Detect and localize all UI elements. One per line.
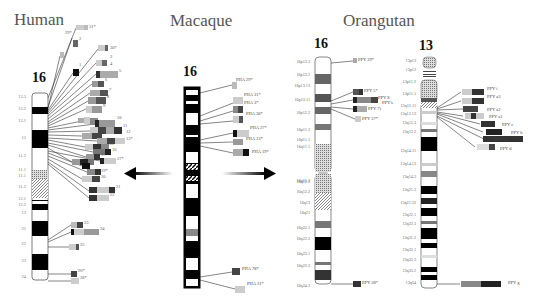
svg-text:13q32.1: 13q32.1 bbox=[402, 247, 416, 252]
svg-text:16q23.1: 16q23.1 bbox=[296, 251, 310, 256]
svg-text:21: 21 bbox=[22, 226, 27, 231]
svg-text:16q22.1: 16q22.1 bbox=[296, 225, 310, 230]
svg-text:11.2: 11.2 bbox=[18, 184, 26, 189]
svg-text:31*: 31* bbox=[89, 24, 97, 29]
svg-text:10: 10 bbox=[117, 115, 122, 120]
svg-text:PPY e: PPY e bbox=[495, 137, 506, 142]
svg-text:16q12.2: 16q12.2 bbox=[296, 189, 310, 194]
svg-text:PPY 7): PPY 7) bbox=[368, 106, 381, 111]
svg-text:PPY 29*: PPY 29* bbox=[358, 57, 375, 62]
svg-text:1: 1 bbox=[79, 62, 81, 67]
svg-text:22: 22 bbox=[22, 241, 27, 246]
svg-text:13q14.11: 13q14.11 bbox=[400, 148, 416, 153]
svg-text:19*: 19* bbox=[101, 168, 109, 173]
svg-text:13q12.13: 13q12.13 bbox=[400, 111, 416, 116]
macaque-chromosome-16 bbox=[184, 87, 200, 288]
svg-text:24: 24 bbox=[100, 226, 105, 231]
svg-text:15: 15 bbox=[109, 141, 114, 146]
human-chromosome-16 bbox=[32, 93, 48, 280]
svg-text:16q21: 16q21 bbox=[300, 210, 310, 215]
svg-text:16p13.11: 16p13.11 bbox=[294, 97, 310, 102]
svg-text:PPY c: PPY c bbox=[502, 122, 513, 127]
svg-text:PPY 27*: PPY 27* bbox=[362, 116, 379, 121]
svg-text:26*: 26* bbox=[78, 268, 86, 273]
svg-text:13*: 13* bbox=[126, 136, 134, 141]
svg-text:13p12: 13p12 bbox=[406, 67, 416, 72]
svg-text:13p11.1: 13p11.1 bbox=[403, 91, 416, 96]
svg-text:16p11.2: 16p11.2 bbox=[297, 127, 310, 132]
right-arrow bbox=[222, 167, 276, 180]
svg-text:PHA 3*: PHA 3* bbox=[244, 100, 259, 105]
svg-text:23: 23 bbox=[22, 258, 27, 263]
human-segment-boxes bbox=[60, 25, 125, 284]
svg-text:13q22.3: 13q22.3 bbox=[402, 221, 416, 226]
svg-text:16p13.3: 16p13.3 bbox=[296, 59, 310, 64]
svg-text:27*: 27* bbox=[117, 156, 125, 161]
svg-text:16: 16 bbox=[112, 147, 117, 152]
svg-text:13q14.3: 13q14.3 bbox=[402, 174, 416, 179]
svg-text:22: 22 bbox=[110, 192, 115, 197]
svg-text:PPY g: PPY g bbox=[508, 280, 520, 285]
svg-text:PPY b: PPY b bbox=[511, 130, 523, 135]
svg-text:PHA 30*: PHA 30* bbox=[246, 111, 263, 116]
svg-text:16p13.13: 16p13.13 bbox=[294, 83, 310, 88]
svg-text:13.2: 13.2 bbox=[18, 106, 26, 111]
svg-text:PHA 29*: PHA 29* bbox=[236, 77, 253, 82]
svg-text:16q23.3: 16q23.3 bbox=[296, 263, 310, 268]
svg-text:PPY i: PPY i bbox=[487, 86, 498, 91]
svg-text:PHA 78*: PHA 78* bbox=[242, 266, 259, 271]
svg-text:13p13: 13p13 bbox=[406, 58, 416, 63]
svg-text:16q12.1: 16q12.1 bbox=[296, 179, 310, 184]
svg-text:PHA 31*: PHA 31* bbox=[244, 92, 261, 97]
svg-text:30*: 30* bbox=[110, 45, 118, 50]
svg-text:13: 13 bbox=[22, 210, 27, 215]
svg-text:PHA 13*: PHA 13* bbox=[246, 136, 263, 141]
svg-text:21: 21 bbox=[116, 184, 121, 189]
svg-text:13q14.13: 13q14.13 bbox=[400, 161, 416, 166]
svg-text:23: 23 bbox=[84, 220, 89, 225]
svg-text:PPY d: PPY d bbox=[500, 146, 512, 151]
svg-text:11.1: 11.1 bbox=[18, 167, 26, 172]
side-label: PPY's bbox=[382, 100, 393, 105]
svg-text:12: 12 bbox=[22, 135, 27, 140]
svg-text:13p11.2: 13p11.2 bbox=[403, 79, 416, 84]
svg-text:PHA 19*: PHA 19* bbox=[252, 149, 269, 154]
svg-text:13q12.3: 13q12.3 bbox=[402, 120, 416, 125]
svg-text:PHA 31*: PHA 31* bbox=[247, 281, 264, 286]
svg-text:16q22.2: 16q22.2 bbox=[296, 236, 310, 241]
svg-text:16q13: 16q13 bbox=[300, 200, 310, 205]
svg-text:PPY a1: PPY a1 bbox=[489, 114, 502, 119]
svg-text:16p12.2: 16p12.2 bbox=[296, 110, 310, 115]
human-band-ticks: 13.3 13.2 13.1 12 11.2 11.1 11.1 11.2 12… bbox=[18, 94, 27, 279]
svg-text:13q33.2: 13q33.2 bbox=[402, 268, 416, 273]
svg-text:16p11.1: 16p11.1 bbox=[297, 137, 310, 142]
svg-text:11.2: 11.2 bbox=[18, 153, 26, 158]
svg-text:PPY a3: PPY a3 bbox=[487, 94, 501, 99]
svg-text:16q11.1: 16q11.1 bbox=[297, 144, 310, 149]
svg-text:12.2: 12.2 bbox=[18, 202, 26, 207]
svg-text:2: 2 bbox=[79, 36, 81, 41]
svg-text:24: 24 bbox=[22, 274, 27, 279]
svg-text:PPY a2: PPY a2 bbox=[487, 107, 500, 112]
svg-text:13q12.11: 13q12.11 bbox=[400, 103, 416, 108]
svg-text:13q31.2: 13q31.2 bbox=[402, 235, 416, 240]
svg-text:29*: 29* bbox=[65, 30, 73, 35]
svg-text:12: 12 bbox=[126, 129, 131, 134]
left-arrow bbox=[124, 167, 173, 180]
svg-text:17: 17 bbox=[101, 152, 106, 157]
svg-text:28*: 28* bbox=[80, 275, 88, 280]
macaque-probe-lines bbox=[200, 85, 235, 289]
orangutan13-probe-lines bbox=[437, 92, 484, 284]
svg-text:PPY 5*: PPY 5* bbox=[364, 88, 378, 93]
orangutan-chromosome-16 bbox=[315, 57, 331, 284]
orangutan13-probe-labels: PPY i PPY a3 PPY a2 PPY a1 PPY c PPY b P… bbox=[487, 86, 523, 285]
orangutan16-probe-lines bbox=[331, 61, 355, 284]
svg-text:7: 7 bbox=[109, 87, 112, 92]
svg-text:13q13.2: 13q13.2 bbox=[402, 129, 416, 134]
diagram-canvas: 13.3 13.2 13.1 12 11.2 11.1 11.1 11.2 12… bbox=[0, 0, 542, 304]
svg-text:16q24.3: 16q24.3 bbox=[296, 283, 310, 288]
svg-text:8: 8 bbox=[107, 94, 110, 99]
svg-text:PPY 28*: PPY 28* bbox=[362, 280, 379, 285]
svg-text:13q21.2: 13q21.2 bbox=[402, 187, 416, 192]
svg-text:4: 4 bbox=[110, 61, 113, 66]
